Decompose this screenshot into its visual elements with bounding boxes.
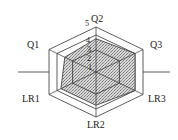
scale-tick-2: 2 <box>87 55 91 63</box>
scale-tick-1: 1 <box>88 64 92 72</box>
axis-label-q3: Q3 <box>150 40 162 50</box>
scale-tick-4: 4 <box>86 37 90 45</box>
axis-label-lr1: LR1 <box>22 94 40 104</box>
axis-label-q2: Q2 <box>91 14 103 24</box>
axis-label-q1: Q1 <box>27 40 39 50</box>
scale-tick-5: 5 <box>85 20 89 28</box>
axis-label-lr2: LR2 <box>87 120 105 130</box>
axis-label-lr3: LR3 <box>148 94 166 104</box>
scale-tick-3: 3 <box>87 46 91 54</box>
